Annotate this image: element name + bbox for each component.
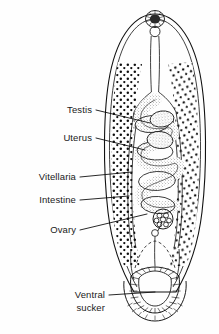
trematode-anatomy-figure: Testis Uterus Vitellaria Intestine Ovary… [0,0,219,334]
label-uterus: Uterus [63,132,92,143]
label-testis: Testis [67,104,92,115]
label-intestine: Intestine [39,194,76,205]
label-vitellaria: Vitellaria [39,171,77,182]
labels-group: Testis Uterus Vitellaria Intestine Ovary… [39,104,105,313]
label-ventral-sucker-line1: Ventral [75,289,105,300]
label-ovary: Ovary [50,224,76,235]
label-ventral-sucker-line2: sucker [76,302,105,313]
diagram-canvas: Testis Uterus Vitellaria Intestine Ovary… [0,0,219,334]
